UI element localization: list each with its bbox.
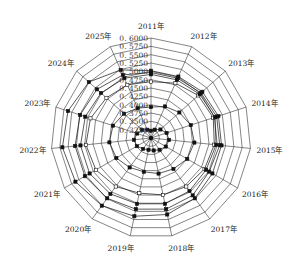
data-point-marker <box>83 175 86 178</box>
axis-label: 2011年 <box>138 21 165 31</box>
tick-label: 0. 3750 <box>119 109 148 118</box>
data-point-marker <box>163 202 166 205</box>
data-point-marker <box>149 105 152 108</box>
axis-label: 2017年 <box>211 224 238 234</box>
tick-label: 0. 5000 <box>119 67 148 76</box>
axis-label: 2015年 <box>256 145 283 155</box>
data-point-marker <box>167 138 170 141</box>
tick-label: 0. 5750 <box>119 42 148 51</box>
data-point-marker <box>111 124 114 127</box>
data-point-marker <box>149 69 152 72</box>
data-point-marker <box>84 143 87 146</box>
data-point-marker <box>172 167 175 170</box>
data-point-marker <box>66 109 69 112</box>
tick-label: 0. 4500 <box>119 84 148 93</box>
data-point-marker <box>149 80 152 83</box>
data-point-marker <box>106 197 109 200</box>
data-point-marker <box>114 185 117 188</box>
data-point-marker <box>214 143 217 146</box>
data-point-marker <box>157 172 160 175</box>
data-point-marker <box>135 145 138 148</box>
center-point <box>149 136 153 140</box>
data-point-marker <box>108 141 111 144</box>
axis-label: 2012年 <box>191 31 218 41</box>
data-point-marker <box>74 180 77 183</box>
data-point-marker <box>163 105 166 108</box>
data-point-marker <box>211 172 214 175</box>
data-point-marker <box>135 202 138 205</box>
data-point-marker <box>84 115 87 118</box>
data-point-marker <box>105 96 108 99</box>
axis-label: 2023年 <box>24 98 51 108</box>
data-point-marker <box>134 208 137 211</box>
data-point-marker <box>205 168 208 171</box>
axis-label: 2022年 <box>20 145 47 155</box>
data-point-marker <box>100 204 103 207</box>
data-point-marker <box>208 170 211 173</box>
axis-label: 2025年 <box>85 31 112 41</box>
data-point-marker <box>109 192 112 195</box>
data-point-marker <box>159 128 162 131</box>
data-point-marker <box>193 141 196 144</box>
data-point-marker <box>147 148 150 151</box>
data-point-marker <box>141 147 144 150</box>
data-point-marker <box>188 189 191 192</box>
axis-label: 2018年 <box>168 243 195 253</box>
data-point-marker <box>165 131 168 134</box>
tick-label: 0. 4250 <box>119 92 148 101</box>
data-point-marker <box>73 144 76 147</box>
data-point-marker <box>99 91 102 94</box>
data-point-marker <box>161 193 164 196</box>
data-point-marker <box>220 144 223 147</box>
axis-label: 2024年 <box>48 58 75 68</box>
data-point-marker <box>61 146 64 149</box>
data-point-marker <box>132 138 135 141</box>
data-point-marker <box>186 157 189 160</box>
data-point-marker <box>189 123 192 126</box>
data-point-marker <box>87 80 90 83</box>
data-point-marker <box>88 172 91 175</box>
data-point-marker <box>89 117 92 120</box>
tick-label: 0. 5500 <box>119 51 148 60</box>
axis-label: 2013年 <box>228 58 255 68</box>
axis-label: 2014年 <box>252 98 279 108</box>
data-point-marker <box>165 208 168 211</box>
data-point-marker <box>193 197 196 200</box>
data-point-marker <box>95 88 98 91</box>
axis-label: 2016年 <box>242 189 269 199</box>
data-point-marker <box>158 148 161 151</box>
data-point-marker <box>128 166 131 169</box>
data-point-marker <box>178 111 181 114</box>
data-point-marker <box>152 149 155 152</box>
axis-label: 2020年 <box>65 224 92 234</box>
radar-chart: 2011年2012年2013年2014年2015年2016年2017年2018年… <box>0 0 294 269</box>
axis-label: 2021年 <box>34 189 61 199</box>
data-point-marker <box>115 156 118 159</box>
tick-label: 0. 6000 <box>119 34 148 43</box>
data-point-marker <box>79 144 82 147</box>
tick-label: 0. 3250 <box>119 126 148 135</box>
data-point-marker <box>142 170 145 173</box>
data-point-marker <box>166 213 169 216</box>
data-point-marker <box>174 82 177 85</box>
data-point-marker <box>164 145 167 148</box>
data-point-marker <box>138 192 141 195</box>
data-point-marker <box>94 168 97 171</box>
axis-label: 2019年 <box>108 243 135 253</box>
tick-label: 0. 3500 <box>119 117 148 126</box>
data-point-marker <box>201 90 204 93</box>
tick-label: 0. 5250 <box>119 59 148 68</box>
data-point-marker <box>133 215 136 218</box>
data-point-marker <box>153 128 156 131</box>
tick-label: 0. 4000 <box>119 101 148 110</box>
tick-label: 0. 4750 <box>119 76 148 85</box>
data-point-marker <box>217 114 220 117</box>
data-point-marker <box>149 129 152 132</box>
data-point-marker <box>79 113 82 116</box>
data-point-marker <box>185 185 188 188</box>
tick-labels: 0. 32500. 35000. 37500. 40000. 42500. 45… <box>119 34 148 135</box>
data-point-marker <box>177 75 180 78</box>
